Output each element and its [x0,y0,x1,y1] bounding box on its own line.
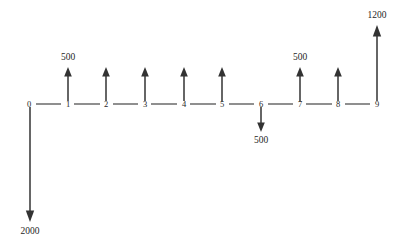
arrow-up-year9 [373,25,381,101]
tick-label-3: 3 [143,100,147,109]
arrow-down-year6 [257,107,265,132]
arrow-up-year4 [180,67,188,101]
arrow-down-year0 [26,107,34,222]
tick-label-2: 2 [104,100,108,109]
tick-label-8: 8 [336,100,340,109]
arrow-up-year5 [218,67,226,101]
arrow-up-year7 [296,67,304,101]
flow-label-year0-2000-down: 2000 [21,227,40,237]
inflow-arrows-group [64,25,381,101]
tick-label-0: 0 [27,100,31,109]
diagram-canvas [0,0,408,249]
arrow-up-year2 [102,67,110,101]
flow-label-year9-1200: 1200 [368,11,387,21]
tick-label-9: 9 [375,100,379,109]
tick-label-5: 5 [220,100,224,109]
tick-label-7: 7 [298,100,302,109]
cash-flow-diagram: 0 1 2 3 4 5 6 7 8 9 500 500 1200 500 200… [0,0,408,249]
arrow-up-year1 [64,67,72,101]
arrow-up-year3 [141,67,149,101]
flow-label-year1-500: 500 [61,53,75,63]
flow-label-year7-500: 500 [293,53,307,63]
arrow-up-year8 [334,67,342,101]
tick-label-6: 6 [259,100,263,109]
tick-label-1: 1 [66,100,70,109]
tick-label-4: 4 [182,100,186,109]
outflow-arrows-group [26,107,265,222]
flow-label-year6-500-down: 500 [254,136,268,146]
